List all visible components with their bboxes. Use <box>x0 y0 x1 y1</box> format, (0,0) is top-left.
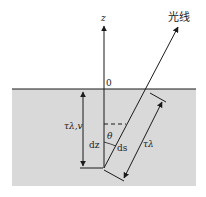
dz-label: dz <box>89 140 100 150</box>
ds-label: ds <box>117 143 128 153</box>
ray-label: 光线 <box>168 10 190 24</box>
optical-depth-diagram: z 0 光线 τλ,v θ dz ds τλ <box>0 0 206 197</box>
theta-label: θ <box>107 131 113 141</box>
z-axis-label: z <box>100 13 106 23</box>
diagram-canvas: z 0 光线 τλ,v θ dz ds τλ <box>0 0 206 197</box>
tau-slant-label: τλ <box>143 139 154 149</box>
tau-vertical-label: τλ,v <box>64 121 83 131</box>
origin-label: 0 <box>106 78 112 88</box>
